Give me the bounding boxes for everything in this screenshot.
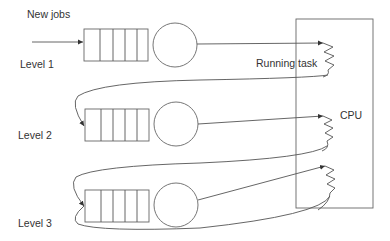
cpu-label: CPU	[340, 109, 362, 121]
level-2-queue	[85, 109, 149, 141]
level-3-label: Level 3	[18, 217, 52, 229]
running-task-zigzag-2	[322, 116, 333, 151]
level-2-dispatch-arrow	[198, 116, 323, 124]
level-2-label: Level 2	[18, 129, 52, 141]
level-1-dispatch-arrow	[197, 43, 323, 44]
new-jobs-label: New jobs	[27, 8, 70, 20]
running-task-zigzag-3	[318, 166, 335, 210]
level-3-queue	[85, 190, 149, 222]
mlfq-diagram: New jobs Level 1 Level 2 Level 3 Running…	[0, 0, 390, 241]
level-1-server	[153, 23, 197, 67]
level-2-server	[154, 102, 198, 146]
level-1-label: Level 1	[20, 58, 54, 70]
level-3-server	[154, 183, 198, 227]
running-task-zigzag-1	[323, 43, 334, 77]
level-3-dispatch-arrow	[198, 166, 325, 200]
level-1-queue	[84, 29, 148, 61]
running-task-label: Running task	[256, 57, 318, 69]
